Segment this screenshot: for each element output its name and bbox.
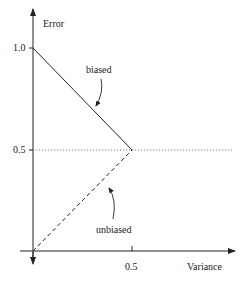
x-axis-label: Variance: [187, 261, 223, 272]
unbiased-line: [33, 150, 132, 251]
bias-variance-diagram: Error 1.0 0.5 0.5 Variance biased unbias…: [0, 0, 244, 281]
unbiased-label: unbiased: [96, 224, 132, 235]
diagram-canvas: Error 1.0 0.5 0.5 Variance biased unbias…: [0, 0, 244, 281]
y-tick-label-1.0: 1.0: [13, 42, 26, 53]
y-tick-label-0.5: 0.5: [13, 144, 26, 155]
x-tick-label-0.5: 0.5: [125, 261, 138, 272]
unbiased-pointer-arrow: [109, 188, 114, 219]
biased-pointer-arrow: [96, 79, 102, 106]
y-axis-label: Error: [43, 18, 65, 29]
biased-label: biased: [86, 64, 112, 75]
biased-line: [33, 48, 132, 150]
